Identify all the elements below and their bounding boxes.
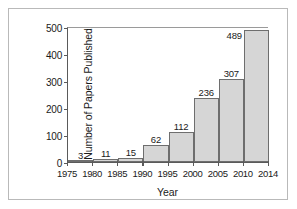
bar-value-label: 15 <box>118 147 143 158</box>
chart-figure: Number of Papers Published Year 01002003… <box>0 0 297 209</box>
y-axis-tick-label: 400 <box>46 50 62 61</box>
bar-value-label: 236 <box>194 87 219 98</box>
bar <box>194 98 219 162</box>
plot-area: 01002003004005003111562112236307489 <box>67 27 268 162</box>
x-axis-tick-label: 1980 <box>82 168 102 179</box>
bar <box>244 30 269 162</box>
figure-frame: Number of Papers Published Year 01002003… <box>8 8 288 200</box>
x-axis-tick-label: 2014 <box>258 168 278 179</box>
bar-value-label: 62 <box>143 134 168 145</box>
x-axis-tick <box>218 161 219 166</box>
bar <box>219 79 244 162</box>
x-axis-tick-label: 1985 <box>107 168 127 179</box>
x-axis-tick-label: 1995 <box>158 168 178 179</box>
x-axis-tick <box>168 161 169 166</box>
bar-value-label: 112 <box>169 121 194 132</box>
y-axis-tick-label: 500 <box>46 23 62 34</box>
y-axis-tick <box>64 109 68 110</box>
y-axis-tick <box>64 55 68 56</box>
x-axis-tick-label: 2005 <box>208 168 228 179</box>
bar-value-label: 307 <box>219 68 244 79</box>
x-axis-tick <box>92 161 93 166</box>
x-axis-tick <box>67 161 68 166</box>
y-axis-tick-label: 300 <box>46 77 62 88</box>
x-axis-tick <box>193 161 194 166</box>
bar-value-label: 489 <box>218 30 242 41</box>
y-axis-tick <box>64 136 68 137</box>
bar-value-label: 3 <box>68 150 93 161</box>
x-axis-tick-label: 1990 <box>132 168 152 179</box>
y-axis-tick <box>64 28 68 29</box>
x-axis-tick-label: 2000 <box>183 168 203 179</box>
y-axis-tick-label: 100 <box>46 131 62 142</box>
x-axis-tick <box>142 161 143 166</box>
bar <box>93 159 118 162</box>
bar <box>143 145 168 162</box>
bar <box>118 158 143 162</box>
y-axis-tick-label: 0 <box>57 158 62 169</box>
x-axis-tick-label: 2010 <box>233 168 253 179</box>
bar-value-label: 11 <box>93 148 118 159</box>
x-axis-tick <box>268 161 269 166</box>
y-axis-tick-label: 200 <box>46 104 62 115</box>
x-axis-title: Year <box>67 186 268 198</box>
x-axis-tick-label: 1975 <box>57 168 77 179</box>
bar <box>169 132 194 162</box>
y-axis-tick <box>64 82 68 83</box>
x-axis-tick <box>117 161 118 166</box>
x-axis-tick <box>243 161 244 166</box>
